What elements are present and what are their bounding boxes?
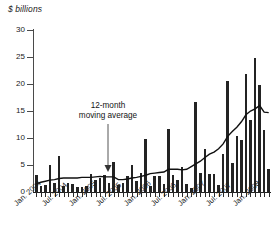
x-axis-tick-label: Jan. 2006 bbox=[122, 179, 153, 208]
x-axis-tick-label: Jan. 2004 bbox=[12, 179, 43, 208]
x-axis-tick-label: Jul. 2007 bbox=[204, 180, 233, 207]
x-axis-tick-label: Jul. 2004 bbox=[40, 180, 69, 207]
x-axis-labels: Jan. 2004Jul. 2004Jan. 2005Jul. 2005Jan.… bbox=[0, 0, 279, 244]
x-axis-tick-label: Jul. 2006 bbox=[149, 180, 178, 207]
x-axis-tick-label: Jan. 2008 bbox=[231, 179, 262, 208]
x-axis-tick-label: Jan. 2005 bbox=[67, 179, 98, 208]
x-axis-tick-label: Jan. 2007 bbox=[176, 179, 207, 208]
chart-container: $ billions 051015202530 12-month moving … bbox=[0, 0, 279, 244]
x-axis-tick-label: Jul. 2005 bbox=[94, 180, 123, 207]
